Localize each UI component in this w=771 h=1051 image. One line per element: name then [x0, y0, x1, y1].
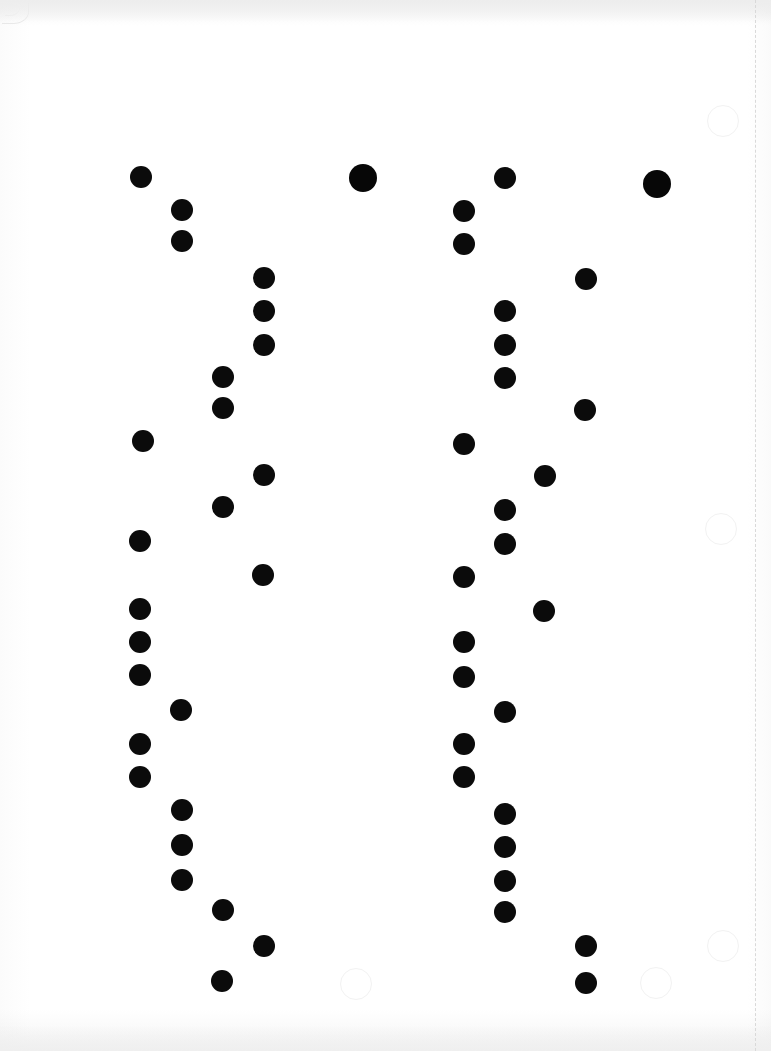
filled-mark: [494, 836, 516, 858]
filled-mark: [453, 200, 475, 222]
filled-mark: [534, 465, 556, 487]
filled-mark: [453, 733, 475, 755]
filled-mark: [494, 499, 516, 521]
filled-mark: [453, 766, 475, 788]
filled-mark: [574, 399, 596, 421]
filled-mark: [494, 901, 516, 923]
filled-mark: [494, 803, 516, 825]
filled-mark-large: [349, 164, 377, 192]
filled-mark: [253, 935, 275, 957]
filled-mark: [253, 300, 275, 322]
filled-mark: [129, 598, 151, 620]
scanned-page: [0, 0, 771, 1051]
filled-mark: [171, 799, 193, 821]
filled-mark: [575, 935, 597, 957]
filled-mark: [170, 699, 192, 721]
filled-mark: [453, 233, 475, 255]
filled-mark: [171, 869, 193, 891]
filled-mark: [171, 230, 193, 252]
filled-mark: [129, 664, 151, 686]
filled-mark: [494, 167, 516, 189]
filled-mark: [129, 733, 151, 755]
filled-mark: [130, 166, 152, 188]
filled-mark: [494, 701, 516, 723]
filled-mark: [129, 631, 151, 653]
filled-mark: [453, 566, 475, 588]
filled-mark: [575, 268, 597, 290]
filled-mark: [129, 766, 151, 788]
filled-mark: [494, 334, 516, 356]
filled-mark: [132, 430, 154, 452]
filled-mark: [453, 433, 475, 455]
filled-mark: [575, 972, 597, 994]
filled-mark: [252, 564, 274, 586]
filled-mark: [494, 367, 516, 389]
filled-mark: [494, 870, 516, 892]
filled-mark: [171, 834, 193, 856]
filled-marks-layer: [0, 0, 771, 1051]
filled-mark: [453, 631, 475, 653]
filled-mark: [212, 899, 234, 921]
filled-mark: [453, 666, 475, 688]
filled-mark: [533, 600, 555, 622]
filled-mark: [212, 496, 234, 518]
filled-mark: [212, 397, 234, 419]
filled-mark: [171, 199, 193, 221]
filled-mark: [129, 530, 151, 552]
filled-mark: [494, 300, 516, 322]
filled-mark: [212, 366, 234, 388]
filled-mark: [211, 970, 233, 992]
filled-mark-large: [643, 170, 671, 198]
filled-mark: [253, 267, 275, 289]
filled-mark: [494, 533, 516, 555]
filled-mark: [253, 334, 275, 356]
filled-mark: [253, 464, 275, 486]
